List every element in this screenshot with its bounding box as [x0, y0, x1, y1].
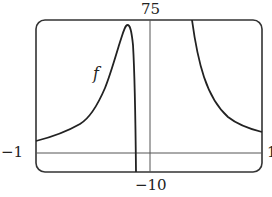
y-max-label: 75 [141, 2, 160, 17]
function-f-left-branch [36, 25, 136, 172]
graph-window [0, 0, 272, 197]
x-min-label: −1 [1, 145, 23, 160]
function-f-right-branch [192, 20, 262, 132]
function-name-label: f [93, 66, 99, 82]
x-max-label: 1 [267, 145, 272, 160]
viewing-window-frame [36, 20, 262, 172]
y-min-label: −10 [135, 178, 167, 193]
